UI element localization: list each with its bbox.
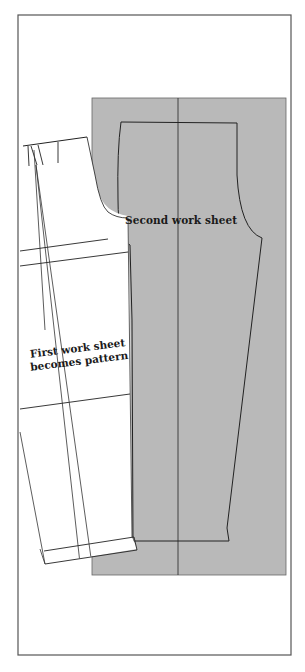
second-work-sheet-label: Second work sheet — [125, 214, 237, 226]
pattern-diagram — [0, 0, 305, 672]
